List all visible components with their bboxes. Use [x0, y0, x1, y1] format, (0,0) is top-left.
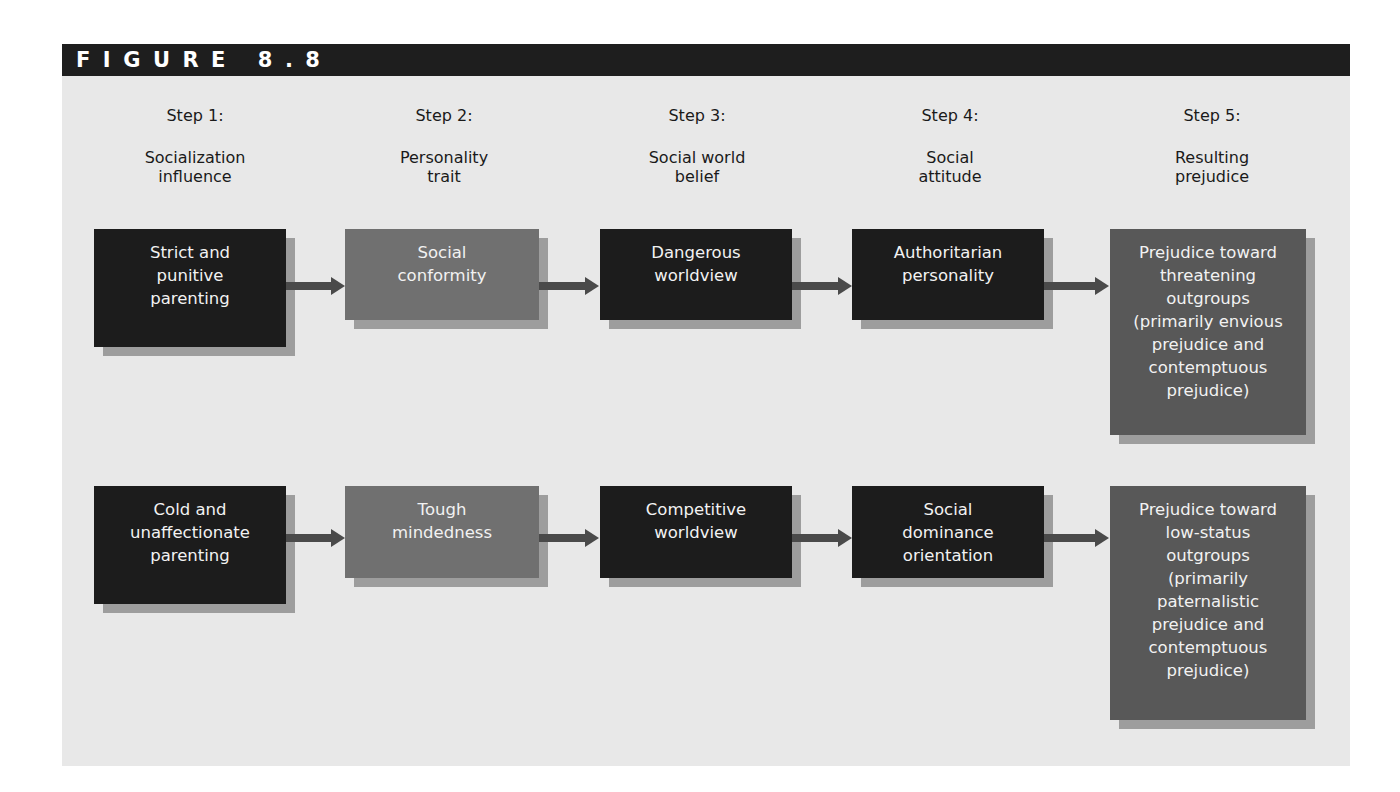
node-competitive-worldview: Competitive worldview — [600, 486, 792, 578]
step-1-heading: Step 1: Socialization influence — [95, 104, 295, 186]
node-label: Social conformity — [398, 241, 487, 287]
node-prejudice-threatening-outgroups: Prejudice toward threatening outgroups (… — [1110, 229, 1306, 435]
step-5-heading: Step 5: Resulting prejudice — [1112, 104, 1312, 186]
step-5-number: Step 5: — [1112, 104, 1312, 148]
arrow-icon — [792, 529, 852, 547]
step-3-heading: Step 3: Social world belief — [597, 104, 797, 186]
arrow-icon — [286, 277, 345, 295]
node-label: Tough mindedness — [392, 498, 492, 544]
node-label: Prejudice toward low-status outgroups (p… — [1139, 498, 1277, 682]
node-authoritarian-personality: Social dominance orientation Authoritari… — [852, 229, 1044, 320]
node-label: Cold and unaffectionate parenting — [130, 498, 250, 567]
node-strict-punitive-parenting: Strict and punitive parenting — [94, 229, 286, 347]
arrow-icon — [539, 529, 599, 547]
node-cold-unaffectionate-parenting: Cold and unaffectionate parenting — [94, 486, 286, 604]
arrow-icon — [286, 529, 345, 547]
node-social-conformity: Social conformity — [345, 229, 539, 320]
step-1-title: Socialization influence — [95, 148, 295, 186]
arrow-icon — [792, 277, 852, 295]
node-label: Competitive worldview — [646, 498, 746, 544]
arrow-icon — [539, 277, 599, 295]
node-social-dominance-orientation: Social dominance orientation — [852, 486, 1044, 578]
step-1-number: Step 1: — [95, 104, 295, 148]
step-2-title: Personality trait — [344, 148, 544, 186]
step-5-title: Resulting prejudice — [1112, 148, 1312, 186]
node-label: Authoritarian personality — [894, 241, 1003, 287]
step-4-title: Social attitude — [850, 148, 1050, 186]
arrow-icon — [1044, 529, 1109, 547]
node-label: Social dominance orientation — [902, 498, 993, 567]
node-label: Dangerous worldview — [651, 241, 740, 287]
step-2-heading: Step 2: Personality trait — [344, 104, 544, 186]
figure-header: FIGURE 8.8 — [62, 44, 1350, 76]
arrow-icon — [1044, 277, 1109, 295]
step-3-title: Social world belief — [597, 148, 797, 186]
step-4-number: Step 4: — [850, 104, 1050, 148]
figure-panel: FIGURE 8.8 Step 1: Socialization influen… — [62, 44, 1350, 766]
node-tough-mindedness: Tough mindedness — [345, 486, 539, 578]
step-2-number: Step 2: — [344, 104, 544, 148]
node-label: Prejudice toward threatening outgroups (… — [1133, 241, 1283, 402]
node-dangerous-worldview: Dangerous worldview — [600, 229, 792, 320]
node-prejudice-low-status-outgroups: Prejudice toward low-status outgroups (p… — [1110, 486, 1306, 720]
node-label: Strict and punitive parenting — [150, 241, 230, 310]
step-4-heading: Step 4: Social attitude — [850, 104, 1050, 186]
step-3-number: Step 3: — [597, 104, 797, 148]
